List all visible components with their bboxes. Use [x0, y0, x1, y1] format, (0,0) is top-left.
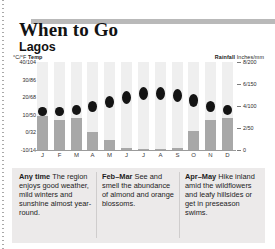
month-label: J	[37, 152, 48, 158]
right-tick-label: 0	[243, 147, 273, 153]
temperature-marker	[189, 94, 198, 107]
month-label: M	[71, 152, 82, 158]
month-column	[138, 62, 149, 150]
right-tick-label: 6/150	[243, 81, 273, 87]
month-label: A	[87, 152, 98, 158]
temperature-marker	[55, 107, 64, 117]
right-tick-label: 4/100	[243, 103, 273, 109]
month-column	[37, 62, 48, 150]
right-tick-mark	[237, 128, 241, 129]
month-label: F	[54, 152, 65, 158]
right-tick-label: 8/200	[243, 59, 273, 65]
notes-panel: Any time The region enjoys good weather,…	[12, 168, 265, 243]
month-label: J	[138, 152, 149, 158]
temperature-marker	[72, 105, 81, 115]
note-heading: Feb–Mar	[102, 172, 132, 181]
temperature-marker	[122, 91, 131, 104]
note-apr-may: Apr–May Hike inland amid the wildflowers…	[185, 173, 261, 218]
plot-baseline	[34, 150, 236, 151]
left-tick-label: 40/104	[10, 59, 36, 65]
month-column	[54, 62, 65, 150]
month-label: S	[172, 152, 183, 158]
rainfall-bar	[104, 140, 115, 150]
right-tick-mark	[237, 106, 241, 107]
page-subtitle: Lagos	[19, 40, 56, 54]
page-edge-dots	[2, 0, 4, 249]
rain-axis-title: Rainfall	[215, 54, 235, 60]
rainfall-bar	[87, 132, 98, 150]
rainfall-bar	[54, 120, 65, 150]
temperature-marker	[173, 89, 182, 102]
left-tick-label: -10/14	[10, 147, 36, 153]
rainfall-bar	[71, 118, 82, 150]
month-column	[172, 62, 183, 150]
rainfall-bar	[37, 116, 48, 150]
temperature-marker	[223, 105, 232, 115]
note-divider	[179, 172, 180, 238]
climate-plot	[34, 62, 236, 150]
right-tick-mark	[237, 150, 241, 151]
rainfall-bar	[205, 120, 216, 150]
left-tick-label: 0/32	[10, 129, 36, 135]
temperature-marker	[206, 101, 215, 112]
rainfall-bar	[188, 131, 199, 150]
month-label: O	[188, 152, 199, 158]
rainfall-bar	[222, 118, 233, 150]
note-heading: Apr–May	[185, 172, 216, 181]
note-feb-mar: Feb–Mar See and smell the abundance of a…	[102, 173, 178, 209]
left-tick-label: 30/86	[10, 77, 36, 83]
page-title: When to Go	[19, 19, 118, 40]
left-tick-label: 10/50	[10, 112, 36, 118]
month-label: D	[222, 152, 233, 158]
month-label: M	[104, 152, 115, 158]
note-divider	[96, 172, 97, 238]
note-any-time: Any time The region enjoys good weather,…	[19, 173, 95, 218]
month-column	[121, 62, 132, 150]
temperature-marker	[88, 101, 97, 112]
left-tick-label: 20/68	[10, 94, 36, 100]
temperature-marker	[38, 107, 47, 117]
right-tick-label: 2/50	[243, 125, 273, 131]
month-label: N	[205, 152, 216, 158]
month-label: J	[121, 152, 132, 158]
right-tick-mark	[237, 62, 241, 63]
month-label: A	[155, 152, 166, 158]
when-to-go-infographic: When to Go Lagos °C/°F Temp Rainfall Inc…	[0, 0, 275, 249]
right-tick-mark	[237, 84, 241, 85]
note-heading: Any time	[19, 172, 50, 181]
month-column	[155, 62, 166, 150]
